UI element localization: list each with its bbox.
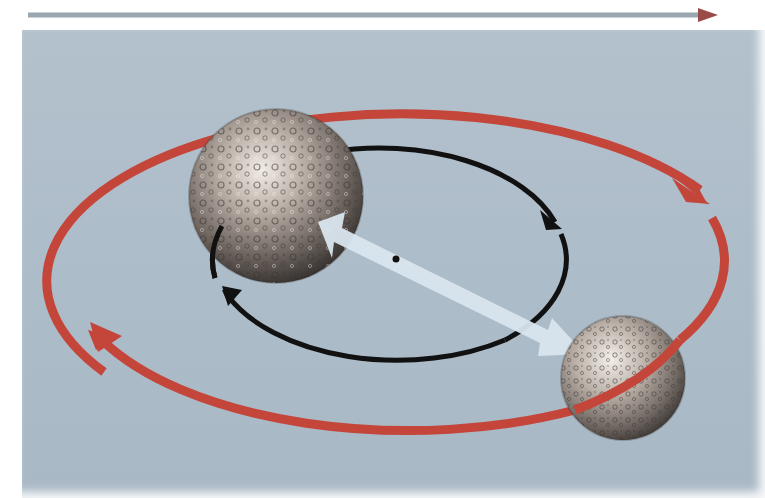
large-cratered-body bbox=[189, 109, 363, 283]
barycenter-dot bbox=[393, 256, 400, 263]
diagram-canvas bbox=[0, 0, 765, 498]
small-cratered-body bbox=[561, 316, 685, 440]
binary-orbit-diagram: binary-orbit-illustration bbox=[0, 0, 765, 498]
connector-double-arrow bbox=[318, 212, 585, 356]
arrow-head-icon bbox=[698, 8, 718, 22]
dashed-time-arrow bbox=[28, 8, 718, 22]
